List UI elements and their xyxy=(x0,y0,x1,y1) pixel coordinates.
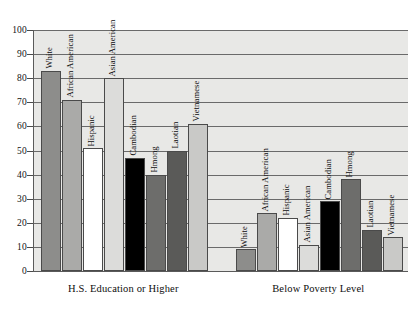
y-axis-tick-label: 100 xyxy=(12,25,27,35)
bar xyxy=(125,158,145,271)
bar-category-label: Vietnamese xyxy=(193,81,202,122)
bar-category-label: Hispanic xyxy=(283,185,292,216)
bar xyxy=(320,201,340,271)
bar xyxy=(167,151,187,272)
bar-category-label: African American xyxy=(67,34,76,97)
bars-layer: WhiteAfrican AmericanHispanicAsian Ameri… xyxy=(34,30,408,271)
bar xyxy=(146,175,166,271)
bar-chart: 0102030405060708090100 WhiteAfrican Amer… xyxy=(0,0,411,309)
y-axis-tick-label: 40 xyxy=(17,170,27,180)
bar-category-label: Asian American xyxy=(304,185,313,242)
bar-category-label: White xyxy=(46,47,55,69)
bar xyxy=(278,218,298,271)
bar xyxy=(341,179,361,271)
y-axis-tick-label: 70 xyxy=(17,97,27,107)
y-axis: 0102030405060708090100 xyxy=(0,0,33,309)
bar-category-label: Hmong xyxy=(346,151,355,177)
y-axis-tick-label: 30 xyxy=(17,194,27,204)
bar-category-label: Asian American xyxy=(109,19,118,76)
bar xyxy=(362,230,382,271)
bar-category-label: Cambodian xyxy=(325,159,334,200)
bar xyxy=(236,249,256,271)
bar-category-label: Vietnamese xyxy=(388,194,397,235)
bar-category-label: Laotian xyxy=(367,201,376,228)
bar xyxy=(83,148,103,271)
bar-category-label: Hispanic xyxy=(88,115,97,146)
y-axis-tick-label: 50 xyxy=(17,146,27,156)
bar xyxy=(257,213,277,271)
y-axis-tick-label: 60 xyxy=(17,121,27,131)
y-axis-tick-label: 20 xyxy=(17,218,27,228)
bar-category-label: Cambodian xyxy=(130,115,139,156)
bar xyxy=(299,245,319,272)
bar-category-label: White xyxy=(241,226,250,248)
group-label-hs-education: H.S. Education or Higher xyxy=(23,283,223,294)
bar xyxy=(41,71,61,271)
bar xyxy=(62,100,82,271)
bar xyxy=(104,78,124,271)
y-axis-tick-label: 10 xyxy=(17,242,27,252)
bar-category-label: Laotian xyxy=(172,122,181,149)
bar xyxy=(188,124,208,271)
bar xyxy=(383,237,403,271)
y-axis-tick-label: 80 xyxy=(17,73,27,83)
bar-category-label: African American xyxy=(262,148,271,211)
y-axis-tick-label: 90 xyxy=(17,49,27,59)
plot-area: WhiteAfrican AmericanHispanicAsian Ameri… xyxy=(33,30,408,272)
group-label-below-poverty: Below Poverty Level xyxy=(218,283,411,294)
bar-category-label: Hmong xyxy=(151,146,160,172)
